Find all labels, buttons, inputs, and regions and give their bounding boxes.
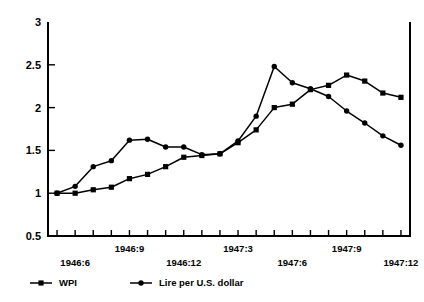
data-point-marker (163, 164, 168, 169)
data-point-marker (308, 86, 313, 91)
y-tick-label: 0.5 (26, 230, 41, 242)
data-point-marker (362, 78, 367, 83)
data-point-marker (163, 144, 168, 149)
data-point-marker (362, 120, 367, 125)
data-point-marker (272, 64, 277, 69)
data-point-marker (217, 151, 222, 156)
series-line-1 (57, 75, 401, 193)
data-point-marker (91, 187, 96, 192)
axis-frame (48, 22, 410, 236)
x-tick-label: 1946:12 (166, 257, 201, 268)
y-tick-label: 1 (35, 187, 41, 199)
data-point-marker (254, 127, 259, 132)
y-tick-label: 1.5 (26, 144, 41, 156)
data-point-marker (380, 90, 385, 95)
legend-label-1: WPI (59, 277, 77, 288)
data-point-marker (290, 102, 295, 107)
data-point-marker (109, 185, 114, 190)
y-tick-label: 2 (35, 102, 41, 114)
legend-marker-square (38, 280, 43, 285)
data-point-marker (344, 72, 349, 77)
data-point-marker (326, 94, 331, 99)
data-point-marker (398, 143, 403, 148)
series-line-2 (57, 67, 401, 194)
data-point-marker (91, 164, 96, 169)
data-point-marker (127, 176, 132, 181)
data-point-marker (145, 137, 150, 142)
x-tick-label: 1947:3 (223, 243, 253, 254)
data-point-marker (109, 158, 114, 163)
data-point-marker (326, 83, 331, 88)
x-tick-label: 1946:9 (115, 243, 145, 254)
x-tick-label: 1947:6 (278, 257, 308, 268)
data-point-marker (272, 105, 277, 110)
data-point-marker (380, 133, 385, 138)
data-point-marker (344, 108, 349, 113)
x-tick-label: 1947:12 (384, 257, 419, 268)
chart-svg: 0.511.522.531946:61946:91946:121947:3194… (0, 0, 424, 302)
y-tick-label: 2.5 (26, 59, 41, 71)
data-point-marker (72, 184, 77, 189)
legend-marker-circle (138, 280, 143, 285)
data-point-marker (398, 95, 403, 100)
data-point-marker (253, 113, 258, 118)
data-point-marker (145, 172, 150, 177)
chart-figure: 0.511.522.531946:61946:91946:121947:3194… (0, 0, 424, 302)
data-point-marker (127, 137, 132, 142)
x-tick-label: 1947:9 (332, 243, 362, 254)
legend-label-2: Lire per U.S. dollar (159, 277, 244, 288)
data-point-marker (73, 191, 78, 196)
x-tick-label: 1946:6 (60, 257, 90, 268)
y-tick-label: 3 (35, 16, 41, 28)
data-point-marker (54, 191, 59, 196)
data-point-marker (199, 152, 204, 157)
data-point-marker (181, 144, 186, 149)
data-point-marker (290, 80, 295, 85)
data-point-marker (235, 138, 240, 143)
data-point-marker (181, 155, 186, 160)
